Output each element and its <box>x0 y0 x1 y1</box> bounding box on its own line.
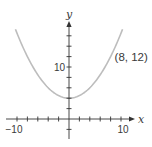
point-annotation-label: (8, 12) <box>115 51 148 63</box>
parabola-graph: x y −101010 (8, 12) <box>0 0 152 147</box>
x-axis-label: x <box>138 113 145 126</box>
y-axis-arrow-icon <box>66 21 71 27</box>
y-tick-label: 10 <box>54 62 66 73</box>
y-axis-label: y <box>65 8 73 21</box>
axes <box>6 26 131 139</box>
x-tick-label: 10 <box>117 124 129 135</box>
x-tick-label: −10 <box>6 124 23 135</box>
x-axis-arrow-icon <box>129 116 135 121</box>
